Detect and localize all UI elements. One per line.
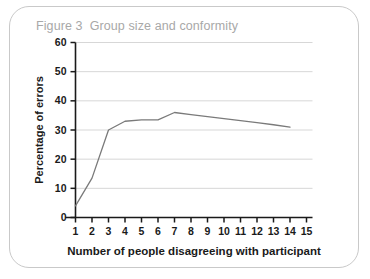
x-tick-label: 8: [188, 225, 194, 237]
y-tick-label: 20: [55, 153, 67, 165]
x-tick-label: 4: [122, 225, 128, 237]
y-tick-group: 0102030405060: [55, 36, 76, 223]
x-tick-label: 3: [106, 225, 112, 237]
y-axis-label: Percentage of errors: [33, 76, 45, 184]
x-tick-label: 10: [218, 225, 230, 237]
x-tick-label: 12: [251, 225, 263, 237]
x-tick-label: 7: [172, 225, 178, 237]
x-tick-label: 13: [268, 225, 280, 237]
x-tick-group: 123456789101112131415: [73, 218, 313, 237]
x-tick-label: 15: [301, 225, 313, 237]
line-chart: 0102030405060 123456789101112131415 Perc…: [0, 0, 370, 279]
x-tick-label: 11: [235, 225, 246, 237]
chart-plot-area: 0102030405060 123456789101112131415 Perc…: [0, 0, 370, 279]
x-tick-label: 6: [155, 225, 161, 237]
y-tick-label: 30: [55, 124, 67, 136]
x-tick-label: 5: [139, 225, 145, 237]
x-axis-label: Number of people disagreeing with partic…: [67, 245, 321, 257]
x-tick-label: 1: [73, 225, 79, 237]
x-tick-label: 2: [89, 225, 95, 237]
y-tick-label: 50: [55, 65, 67, 77]
y-tick-label: 10: [55, 182, 67, 194]
y-tick-label: 40: [55, 94, 67, 106]
y-tick-label: 60: [55, 36, 67, 48]
x-tick-label: 9: [205, 225, 211, 237]
x-tick-label: 14: [284, 225, 296, 237]
